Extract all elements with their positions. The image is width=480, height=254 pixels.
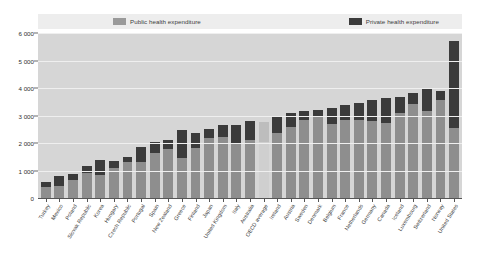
x-axis-tick-mark	[332, 199, 333, 202]
y-axis-tick-label: 6 000	[19, 30, 34, 37]
gridline	[38, 33, 462, 34]
stacked-bar[interactable]	[395, 97, 405, 198]
stacked-bar[interactable]	[272, 117, 282, 198]
x-axis-tick-column: OECD average	[257, 199, 271, 254]
x-axis-tick-label: Mexico	[50, 203, 64, 221]
bar-segment-public	[381, 123, 391, 198]
bar-segment-public	[82, 173, 92, 198]
stacked-bar[interactable]	[177, 130, 187, 198]
bar-segment-public	[95, 175, 105, 198]
x-axis-tick-mark	[264, 199, 265, 202]
x-axis-tick-column: Finland	[189, 199, 203, 254]
x-axis-tick-mark	[209, 199, 210, 202]
x-axis-tick-mark	[413, 199, 414, 202]
x-axis-tick-column: United Kingdom	[216, 199, 230, 254]
legend-label-private: Private health expenditure	[366, 18, 439, 25]
stacked-bar[interactable]	[41, 182, 51, 198]
bar-segment-public	[218, 137, 228, 198]
x-axis-tick-label: Greece	[172, 203, 187, 221]
stacked-bar[interactable]	[204, 129, 214, 198]
x-axis-tick-label: Poland	[64, 203, 78, 221]
bar-segment-public	[354, 120, 364, 198]
plot-area	[38, 33, 462, 198]
health-expenditure-chart: Public health expenditure Private health…	[0, 0, 480, 254]
gridline	[38, 61, 462, 62]
stacked-bar[interactable]	[54, 176, 64, 198]
stacked-bar[interactable]	[163, 140, 173, 198]
stacked-bar[interactable]	[218, 125, 228, 198]
bar-segment-public	[177, 158, 187, 198]
x-axis-tick-mark	[155, 199, 156, 202]
bar-segment-private	[82, 166, 92, 173]
stacked-bar[interactable]	[340, 105, 350, 198]
x-axis-tick-mark	[454, 199, 455, 202]
bar-segment-private	[204, 129, 214, 137]
stacked-bar[interactable]	[95, 160, 105, 198]
stacked-bar[interactable]	[286, 113, 296, 198]
x-axis-tick-column: Italy	[230, 199, 244, 254]
stacked-bar[interactable]	[136, 147, 146, 198]
x-axis-tick-mark	[386, 199, 387, 202]
bar-segment-private	[191, 133, 201, 148]
bar-segment-private	[163, 140, 173, 149]
legend-swatch-public-icon	[113, 18, 126, 25]
y-axis-tick-label: 1 000	[19, 167, 34, 174]
x-axis-tick-mark	[345, 199, 346, 202]
bar-segment-public	[191, 148, 201, 198]
x-axis-tick-column: Austria	[284, 199, 298, 254]
bar-segment-private	[367, 100, 377, 121]
x-axis-tick-column: Korea	[93, 199, 107, 254]
gridline	[38, 171, 462, 172]
y-axis-tick-label: 0	[31, 195, 34, 202]
stacked-bar[interactable]	[449, 41, 459, 198]
x-axis-tick-column: United States	[447, 199, 461, 254]
stacked-bar[interactable]	[123, 157, 133, 198]
x-axis-tick-column: Canada	[379, 199, 393, 254]
stacked-bar[interactable]	[259, 122, 269, 198]
x-axis-tick-mark	[100, 199, 101, 202]
bar-segment-public	[245, 140, 255, 198]
bar-segment-private	[381, 98, 391, 124]
y-axis-tick-label: 3 000	[19, 112, 34, 119]
x-axis-tick-column: Switzerland	[420, 199, 434, 254]
bar-segment-public	[136, 162, 146, 198]
bar-segment-private	[354, 103, 364, 120]
bar-segment-private	[150, 142, 160, 153]
x-axis-tick-column: Slovak Republic	[80, 199, 94, 254]
x-axis-tick-column: Netherlands	[352, 199, 366, 254]
x-axis-tick-mark	[223, 199, 224, 202]
x-axis-tick-label: Spain	[147, 203, 160, 218]
bar-segment-private	[272, 117, 282, 133]
stacked-bar[interactable]	[109, 161, 119, 198]
bar-segment-public	[422, 111, 432, 198]
bar-segment-public	[395, 113, 405, 198]
x-axis-tick-column: Germany	[366, 199, 380, 254]
bar-segment-private	[54, 176, 64, 186]
bar-segment-public	[340, 120, 350, 198]
stacked-bar[interactable]	[327, 108, 337, 198]
chart-legend: Public health expenditure Private health…	[38, 14, 462, 29]
x-axis-tick-mark	[372, 199, 373, 202]
stacked-bar[interactable]	[313, 110, 323, 198]
stacked-bar[interactable]	[68, 174, 78, 198]
stacked-bar[interactable]	[436, 91, 446, 198]
x-axis-tick-mark	[236, 199, 237, 202]
bar-segment-public	[54, 186, 64, 198]
legend-entry-public: Public health expenditure	[113, 18, 201, 25]
stacked-bar[interactable]	[245, 121, 255, 198]
stacked-bar[interactable]	[408, 93, 418, 198]
x-axis-tick-mark	[400, 199, 401, 202]
x-axis-tick-column: Sweden	[298, 199, 312, 254]
y-axis-tick-label: 2 000	[19, 140, 34, 147]
stacked-bar[interactable]	[381, 98, 391, 198]
x-axis-tick-mark	[87, 199, 88, 202]
bar-segment-public	[327, 124, 337, 198]
x-axis-tick-column: Mexico	[53, 199, 67, 254]
stacked-bar[interactable]	[354, 103, 364, 198]
x-axis-tick-column: Ireland	[270, 199, 284, 254]
x-axis-tick-column: Denmark	[311, 199, 325, 254]
x-axis-tick-mark	[127, 199, 128, 202]
x-axis-tick-column: Belgium	[325, 199, 339, 254]
stacked-bar[interactable]	[299, 111, 309, 198]
stacked-bar[interactable]	[231, 125, 241, 198]
